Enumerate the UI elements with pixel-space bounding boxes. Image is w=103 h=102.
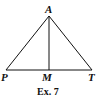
figure-caption: Ex. 7 xyxy=(37,86,59,97)
segment-ap xyxy=(6,16,49,70)
label-t: T xyxy=(88,71,96,83)
label-m: M xyxy=(41,71,53,83)
label-a: A xyxy=(44,3,52,15)
segment-at xyxy=(49,16,92,70)
label-p: P xyxy=(1,71,8,83)
triangle-diagram: A P M T Ex. 7 xyxy=(0,0,103,102)
